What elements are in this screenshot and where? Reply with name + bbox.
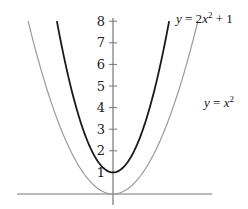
curve-labels: y = 2x2 + 1 y = x2 (174, 10, 234, 110)
label-dark-curve: y = 2x2 + 1 (174, 10, 233, 26)
y-tick-label: 2 (97, 143, 105, 158)
y-tick-label: 7 (97, 35, 105, 50)
y-tick-label: 5 (97, 79, 105, 94)
y-tick-label: 8 (97, 14, 105, 29)
y-tick-label: 3 (97, 122, 105, 137)
y-tick-label: 4 (97, 100, 105, 115)
y-tick-label: 1 (97, 165, 105, 180)
parabola-chart: 12345678 y = 2x2 + 1 y = x2 (0, 0, 248, 209)
y-axis-ticks: 12345678 (97, 14, 117, 180)
axes (17, 18, 212, 205)
y-tick-label: 6 (97, 57, 105, 72)
label-light-curve: y = x2 (202, 94, 234, 110)
